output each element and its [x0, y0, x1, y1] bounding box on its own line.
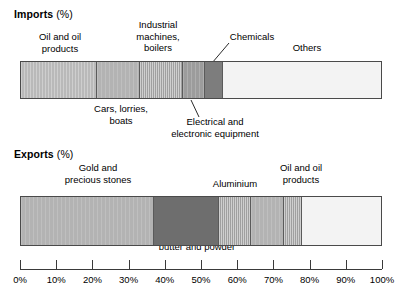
- exports-segment-gold-and-precious-stones[interactable]: [21, 197, 154, 245]
- axis-tick: [346, 260, 347, 269]
- axis-tick: [129, 260, 130, 269]
- exports-label-oil: Oil and oil products: [263, 162, 339, 185]
- axis-tick-label: 40%: [145, 274, 185, 285]
- exports-segment-aluminium[interactable]: [219, 197, 251, 245]
- axis-tick: [201, 260, 202, 269]
- imports-stacked-bar: [20, 61, 382, 99]
- axis-line: [20, 269, 382, 270]
- axis-tick: [310, 260, 311, 269]
- axis-tick-label: 60%: [217, 274, 257, 285]
- axis-tick-label: 70%: [253, 274, 293, 285]
- axis-tick: [273, 260, 274, 269]
- exports-segment-oil-and-oil-products[interactable]: [284, 197, 302, 245]
- axis-tick-label: 90%: [326, 274, 366, 285]
- axis-tick: [56, 260, 57, 269]
- stacked-bar-chart-figure: Imports (%) Oil and oil products Industr…: [0, 0, 405, 292]
- axis-tick-label: 50%: [181, 274, 221, 285]
- imports-segment-cars-lorries-boats[interactable]: [97, 62, 140, 98]
- exports-stacked-bar: [20, 196, 382, 246]
- axis-tick-label: 20%: [72, 274, 112, 285]
- exports-section-title: Exports (%): [14, 148, 73, 160]
- imports-segment-chemicals[interactable]: [205, 62, 223, 98]
- imports-segment-industrial-machines-boilers[interactable]: [140, 62, 183, 98]
- exports-title-unit: (%): [57, 148, 74, 160]
- exports-segment-timber[interactable]: [251, 197, 283, 245]
- axis-tick-label: 10%: [36, 274, 76, 285]
- axis-tick-label: 0%: [0, 274, 40, 285]
- imports-segment-electrical-and-electronic-equipment[interactable]: [183, 62, 205, 98]
- axis-tick-label: 100%: [362, 274, 402, 285]
- imports-segment-others[interactable]: [223, 62, 381, 98]
- exports-label-aluminium: Aluminium: [200, 178, 270, 190]
- axis-tick: [92, 260, 93, 269]
- axis-tick: [237, 260, 238, 269]
- axis-tick: [165, 260, 166, 269]
- axis-tick: [20, 260, 21, 269]
- axis-tick-label: 30%: [109, 274, 149, 285]
- exports-title-main: Exports: [14, 148, 54, 160]
- axis-tick-label: 80%: [290, 274, 330, 285]
- axis-tick: [382, 260, 383, 269]
- imports-segment-oil-and-oil-products[interactable]: [21, 62, 97, 98]
- exports-segment-cocoa-beans-butter-and-powder[interactable]: [154, 197, 219, 245]
- exports-segment-others[interactable]: [302, 197, 381, 245]
- exports-label-gold: Gold and precious stones: [42, 162, 154, 185]
- percentage-axis: 0%10%20%30%40%50%60%70%80%90%100%: [0, 255, 405, 292]
